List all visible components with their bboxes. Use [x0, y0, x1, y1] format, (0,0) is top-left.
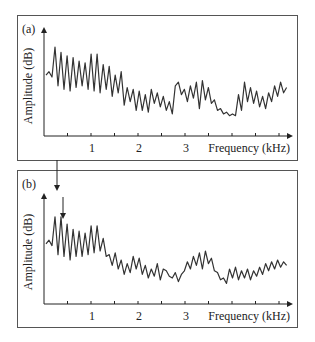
panel-a-tick-1: 1: [89, 141, 95, 155]
figure: (a) 1 2 3 Frequency (kHz) Amplitude (dB)…: [0, 0, 315, 342]
panel-b-label: (b): [22, 177, 36, 191]
panel-a-tick-2: 2: [136, 141, 142, 155]
panel-a-tick-3: 3: [183, 141, 189, 155]
panel-b-xlabel: Frequency (kHz): [208, 309, 290, 323]
panel-b: (b) 1 2 3 Frequency (kHz) Amplitude (dB): [18, 160, 298, 328]
panel-b-tick-3: 3: [183, 309, 189, 323]
panel-b-tick-2: 2: [136, 309, 142, 323]
panel-b-tick-1: 1: [89, 309, 95, 323]
panel-b-ylabel: Amplitude (dB): [21, 214, 35, 290]
panel-a-spectrum-line: [46, 47, 287, 116]
panel-a-label: (a): [22, 22, 35, 36]
panel-a-xlabel: Frequency (kHz): [208, 141, 290, 155]
panel-a-ylabel: Amplitude (dB): [21, 48, 35, 124]
panel-b-spectrum-line: [46, 217, 287, 284]
panel-a: (a) 1 2 3 Frequency (kHz) Amplitude (dB): [18, 16, 298, 161]
panel-a-border: [18, 16, 298, 161]
